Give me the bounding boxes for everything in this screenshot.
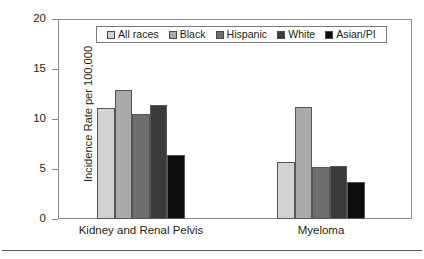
bar [312, 167, 330, 219]
bar [167, 155, 185, 219]
legend-item: All races [102, 29, 164, 40]
legend-label: White [288, 29, 315, 40]
legend-swatch-icon [325, 31, 333, 39]
bar [132, 114, 150, 219]
bar [97, 108, 115, 219]
legend-item: Black [164, 29, 211, 40]
legend-item: Hispanic [211, 29, 273, 40]
legend-label: Black [180, 29, 206, 40]
legend-swatch-icon [107, 31, 115, 39]
y-axis-ticks: 05101520 [0, 0, 58, 259]
y-tick-label: 15 [33, 63, 46, 75]
legend-label: Asian/PI [336, 29, 375, 40]
bar [295, 107, 313, 219]
legend-label: All races [118, 29, 159, 40]
x-tick-label: Myeloma [298, 224, 345, 236]
y-tick-label: 5 [40, 163, 46, 175]
legend-swatch-icon [169, 31, 177, 39]
x-tick-label: Kidney and Renal Pelvis [79, 224, 204, 236]
bars-layer [58, 19, 412, 219]
legend-swatch-icon [216, 31, 224, 39]
chart-legend: All racesBlackHispanicWhiteAsian/PI [96, 26, 387, 43]
bar [115, 90, 133, 219]
legend-label: Hispanic [227, 29, 268, 40]
legend-swatch-icon [277, 31, 285, 39]
y-tick-label: 20 [33, 13, 46, 25]
bar [347, 182, 365, 219]
y-tick-mark [52, 219, 58, 220]
x-axis-labels: Kidney and Renal PelvisMyeloma [58, 224, 412, 244]
bar [330, 166, 348, 219]
bar [150, 105, 168, 219]
y-tick-label: 0 [40, 213, 46, 225]
bottom-divider [2, 250, 422, 251]
legend-item: White [272, 29, 320, 40]
y-tick-label: 10 [33, 113, 46, 125]
chart-figure: 05101520 Incidence Rate per 100,000 Kidn… [0, 0, 424, 259]
bar [277, 162, 295, 219]
legend-item: Asian/PI [320, 29, 380, 40]
